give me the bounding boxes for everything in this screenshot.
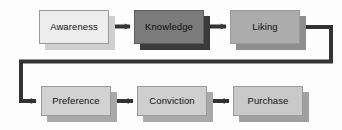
node-label-liking: Liking bbox=[252, 22, 277, 33]
node-label-knowledge: Knowledge bbox=[145, 22, 193, 33]
node-knowledge[interactable]: Knowledge bbox=[134, 10, 204, 44]
node-liking[interactable]: Liking bbox=[230, 10, 300, 44]
node-purchase[interactable]: Purchase bbox=[233, 86, 303, 116]
diagram-canvas: Awareness Knowledge Liking Preference Co… bbox=[0, 0, 342, 130]
node-preference[interactable]: Preference bbox=[41, 86, 111, 116]
node-awareness[interactable]: Awareness bbox=[39, 10, 109, 44]
node-label-preference: Preference bbox=[52, 96, 99, 107]
node-label-purchase: Purchase bbox=[248, 96, 289, 107]
node-label-awareness: Awareness bbox=[50, 22, 98, 33]
node-conviction[interactable]: Conviction bbox=[137, 86, 207, 116]
node-label-conviction: Conviction bbox=[149, 96, 194, 107]
